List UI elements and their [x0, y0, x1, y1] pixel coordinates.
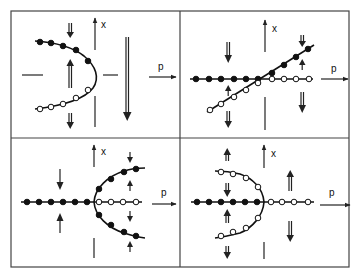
flow-arrow-up-icon — [127, 241, 133, 252]
bifurcation-figure: x p — [0, 0, 359, 277]
flow-double-arrow-down-icon — [224, 183, 232, 197]
panel-bottom-right: x p — [191, 145, 350, 259]
flow-arrow-up-icon — [225, 85, 232, 96]
panel-top-right: x p — [190, 20, 348, 130]
flow-double-arrow-down-icon — [123, 37, 132, 121]
figure-frame — [11, 11, 349, 267]
upper-branch — [94, 168, 145, 202]
flow-arrow-up-icon — [127, 180, 133, 191]
flow-arrow-up-icon — [57, 213, 64, 233]
flow-arrow-down-icon — [127, 211, 133, 222]
flow-double-arrow-down-icon — [224, 246, 232, 259]
flow-double-arrow-up-icon — [224, 148, 232, 161]
flow-arrow-up-icon — [299, 59, 306, 70]
lower-branch — [94, 202, 145, 238]
p-axis-label: p — [161, 187, 167, 198]
flow-double-arrow-down-icon — [67, 113, 75, 129]
flow-double-arrow-up-icon — [287, 170, 295, 191]
flow-double-arrow-down-icon — [299, 35, 307, 47]
p-axis-label: p — [329, 187, 335, 198]
flow-arrow-down-icon — [57, 169, 64, 190]
panel-top-left: x p — [22, 18, 176, 129]
x-axis-label: x — [271, 148, 276, 159]
fold-curve — [35, 41, 96, 109]
x-axis-label: x — [101, 146, 106, 157]
x-axis-label: x — [272, 23, 277, 34]
flow-arrow-down-icon — [127, 152, 133, 163]
x-axis-label: x — [101, 19, 106, 30]
flow-double-arrow-up-icon — [67, 59, 75, 88]
flow-double-arrow-down-icon — [299, 92, 307, 113]
stable-branch-dots — [193, 46, 311, 82]
flow-double-arrow-down-icon — [225, 111, 233, 128]
p-axis-label: p — [331, 63, 337, 74]
panel-bottom-left: x p — [21, 145, 176, 258]
flow-double-arrow-down-icon — [287, 221, 295, 242]
stable-branch-dots — [37, 39, 91, 64]
p-axis-label: p — [158, 61, 164, 72]
flow-double-arrow-down-icon — [225, 42, 233, 63]
flow-double-arrow-down-icon — [67, 23, 75, 38]
flow-double-arrow-up-icon — [224, 209, 232, 223]
